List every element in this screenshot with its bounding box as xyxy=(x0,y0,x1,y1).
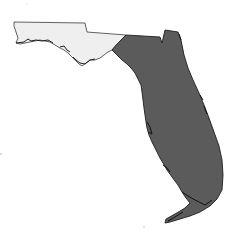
florida-map xyxy=(0,0,236,240)
speck xyxy=(26,3,27,4)
region-panhandle xyxy=(14,22,126,66)
speck xyxy=(0,153,1,154)
speck xyxy=(143,226,144,227)
region-peninsula xyxy=(112,30,223,223)
